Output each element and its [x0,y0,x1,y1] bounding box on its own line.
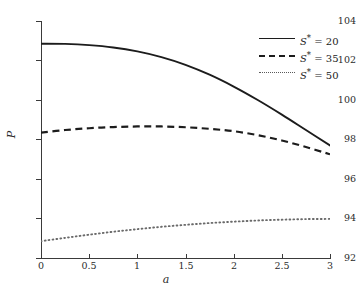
legend-star: * [307,67,311,77]
legend-value: 20 [326,36,339,47]
x-tick-label-2p5: 2.5 [262,261,302,271]
x-tick-label-2: 2 [214,261,254,271]
x-tick-label-0p5: 0.5 [69,261,109,271]
legend-label-s35: S* = 35 [300,48,339,66]
legend-label-s50: S* = 50 [300,65,339,83]
legend-item-s35: S* = 35 [259,48,354,65]
legend-swatch-dotted [259,72,295,73]
line-series-s35 [41,126,330,154]
x-axis-label: a [151,273,181,286]
legend-label-s20: S* = 20 [300,31,339,49]
chart-figure: 92 94 96 98 100 102 104 0 0.5 1 1.5 2 2.… [0,0,356,292]
x-tick-label-1p5: 1.5 [166,261,206,271]
legend-swatch-dashed [259,55,295,57]
legend-symbol-s: S [300,36,307,47]
legend-star: * [307,33,311,43]
legend-item-s50: S* = 50 [259,65,354,82]
legend-value: 35 [326,53,339,64]
legend-swatch-solid [259,38,295,39]
y-axis-label: P [5,120,18,150]
legend-symbol-s: S [300,53,307,64]
legend-star: * [307,50,311,60]
chart-legend: S* = 20 S* = 35 S* = 50 [259,31,354,82]
x-tick-label-1: 1 [117,261,157,271]
x-tick-label-0: 0 [21,261,61,271]
legend-item-s20: S* = 20 [259,31,354,48]
line-series-s50 [41,219,330,241]
x-tick-3 [330,254,331,259]
x-tick-label-3: 3 [310,261,350,271]
legend-symbol-s: S [300,70,307,81]
legend-value: 50 [326,70,339,81]
